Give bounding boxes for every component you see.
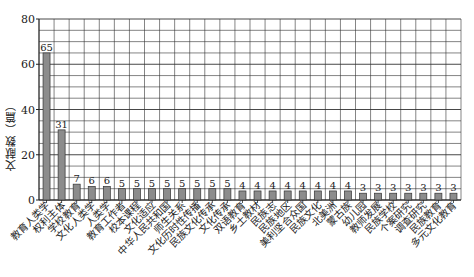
bar <box>103 186 110 200</box>
bar-value-label: 5 <box>194 178 200 189</box>
chart-canvas: 02040608065教育人类学31权利主体7学校教育6文化人类学6人类学5教育… <box>0 0 474 277</box>
bar-value-label: 4 <box>269 180 275 191</box>
bar-value-label: 5 <box>134 178 140 189</box>
bar <box>435 193 442 200</box>
bar-value-label: 3 <box>435 182 441 193</box>
bar <box>43 53 50 200</box>
y-tick-label: 0 <box>28 194 35 207</box>
bar-value-label: 4 <box>300 180 306 191</box>
bar-value-label: 3 <box>360 182 366 193</box>
bar-value-label: 4 <box>239 180 245 191</box>
bar <box>224 189 231 200</box>
bar <box>344 191 351 200</box>
y-tick-label: 80 <box>21 13 35 26</box>
bar <box>405 193 412 200</box>
bar-value-label: 4 <box>284 180 290 191</box>
bar <box>179 189 186 200</box>
bar <box>239 191 246 200</box>
bar <box>194 189 201 200</box>
bar <box>133 189 140 200</box>
bar-value-label: 5 <box>164 178 170 189</box>
bar <box>314 191 321 200</box>
bar <box>269 191 276 200</box>
bar-value-label: 7 <box>73 173 79 184</box>
bar <box>118 189 125 200</box>
bar <box>450 193 457 200</box>
bar-value-label: 5 <box>149 178 155 189</box>
bar-value-label: 65 <box>40 42 53 53</box>
bar <box>254 191 261 200</box>
bar <box>73 184 80 200</box>
bar-value-label: 3 <box>405 182 411 193</box>
bar <box>329 191 336 200</box>
bar <box>149 189 156 200</box>
bar-value-label: 3 <box>390 182 396 193</box>
bar <box>284 191 291 200</box>
bar-value-label: 3 <box>420 182 426 193</box>
bar-value-label: 5 <box>119 178 125 189</box>
bar <box>375 193 382 200</box>
bar-value-label: 4 <box>345 180 351 191</box>
bar <box>299 191 306 200</box>
bar-value-label: 6 <box>89 175 95 186</box>
bar <box>420 193 427 200</box>
bar-value-label: 4 <box>254 180 260 191</box>
bar-value-label: 6 <box>104 175 110 186</box>
bar-value-label: 3 <box>375 182 381 193</box>
bar-value-label: 4 <box>315 180 321 191</box>
bar <box>58 130 65 200</box>
y-tick-label: 60 <box>21 58 35 71</box>
bar <box>88 186 95 200</box>
bar <box>360 193 367 200</box>
y-axis-label: 文献数（篇） <box>4 80 24 190</box>
bar-value-label: 4 <box>330 180 336 191</box>
bar-value-label: 3 <box>450 182 456 193</box>
bar <box>209 189 216 200</box>
bar-value-label: 5 <box>179 178 185 189</box>
bar-value-label: 31 <box>55 119 68 130</box>
bar-value-label: 5 <box>224 178 230 189</box>
bar <box>164 189 171 200</box>
bar-value-label: 5 <box>209 178 215 189</box>
bar <box>390 193 397 200</box>
